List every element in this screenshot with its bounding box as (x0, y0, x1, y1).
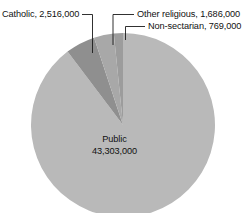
slice-label-other-religious: Other religious, 1,686,000 (137, 9, 240, 20)
slice-label-public-value: 43,303,000 (92, 145, 137, 157)
slice-label-public: Public 43,303,000 (92, 133, 137, 157)
slice-label-non-sectarian: Non-sectarian, 769,000 (148, 21, 241, 32)
pie-chart-figure: Catholic, 2,516,000 Other religious, 1,6… (0, 0, 248, 213)
slice-label-public-name: Public (102, 134, 126, 144)
slice-label-catholic: Catholic, 2,516,000 (2, 9, 79, 20)
